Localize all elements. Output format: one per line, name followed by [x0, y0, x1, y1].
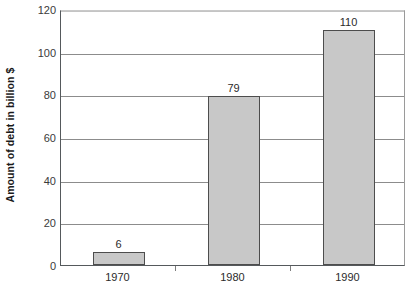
y-tick-label: 0 — [26, 261, 56, 272]
bar — [93, 252, 145, 265]
y-axis-title-text: Amount of debt in billion $ — [4, 67, 16, 202]
x-category-label: 1970 — [78, 272, 158, 283]
y-tick-label: 120 — [26, 5, 56, 16]
y-axis-tick-labels: 020406080100120 — [24, 0, 56, 299]
y-axis-title: Amount of debt in billion $ — [0, 0, 20, 270]
bar-chart: Amount of debt in billion $ 020406080100… — [0, 0, 416, 299]
bar-value-label: 6 — [89, 239, 149, 250]
y-tick-label: 20 — [26, 218, 56, 229]
y-tick-label: 80 — [26, 90, 56, 101]
x-category-label: 1990 — [308, 272, 388, 283]
y-tick-label: 100 — [26, 47, 56, 58]
x-axis-tick — [175, 266, 176, 271]
plot-area: 679110 — [60, 10, 405, 266]
y-tick-label: 40 — [26, 175, 56, 186]
bar — [208, 96, 260, 265]
y-tick-label: 60 — [26, 133, 56, 144]
bar-value-label: 79 — [204, 83, 264, 94]
bar — [323, 30, 375, 265]
x-category-label: 1980 — [193, 272, 273, 283]
bar-value-label: 110 — [319, 17, 379, 28]
bars-layer: 679110 — [61, 11, 404, 265]
x-axis-tick — [290, 266, 291, 271]
